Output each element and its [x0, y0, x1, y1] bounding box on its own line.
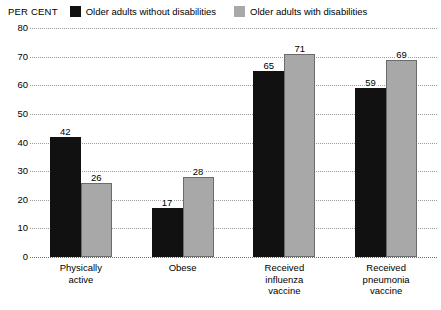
bar[interactable]: 69 [386, 60, 417, 258]
bar[interactable]: 17 [152, 208, 183, 257]
y-axis-tick-label: 50 [4, 109, 28, 119]
legend-swatch-with-disabilities-icon [234, 6, 245, 17]
legend-item-without-disabilities: Older adults without disabilities [70, 6, 216, 17]
bar-group: 6571 [253, 28, 315, 257]
bar-value-label: 28 [192, 166, 205, 177]
bar-group: 5969 [355, 28, 417, 257]
bar[interactable]: 28 [183, 177, 214, 257]
bar-groups: 4226172865715969 [30, 28, 437, 257]
bar[interactable]: 26 [81, 183, 112, 257]
legend-label-with-disabilities: Older adults with disabilities [250, 6, 367, 17]
legend-item-with-disabilities: Older adults with disabilities [234, 6, 367, 17]
x-axis-category-label: Received influenza vaccine [234, 262, 336, 297]
bar-group: 1728 [152, 28, 214, 257]
y-axis-tick-label: 60 [4, 80, 28, 90]
y-axis-tick-label: 10 [4, 223, 28, 233]
y-axis-tick-label: 20 [4, 195, 28, 205]
y-axis-tick-label: 80 [4, 23, 28, 33]
legend-swatch-without-disabilities-icon [70, 6, 81, 17]
bar[interactable]: 59 [355, 88, 386, 257]
bar-value-label: 69 [395, 49, 408, 60]
x-axis-labels: Physically activeObeseReceived influenza… [30, 262, 437, 308]
bar-value-label: 26 [90, 172, 103, 183]
x-axis-category-label: Obese [132, 262, 234, 274]
bar[interactable]: 71 [284, 54, 315, 257]
bar-value-label: 71 [294, 43, 307, 54]
y-axis-tick-label: 30 [4, 166, 28, 176]
bar[interactable]: 42 [50, 137, 81, 257]
x-axis-category-label: Received pneumonia vaccine [335, 262, 437, 297]
bar[interactable]: 65 [253, 71, 284, 257]
chart-header: PER CENT Older adults without disabiliti… [0, 0, 441, 22]
x-axis-category-label: Physically active [30, 262, 132, 285]
legend-label-without-disabilities: Older adults without disabilities [86, 6, 216, 17]
bar-value-label: 65 [263, 60, 276, 71]
y-axis-tick-label: 0 [4, 252, 28, 262]
y-axis-tick-label: 70 [4, 52, 28, 62]
bar-value-label: 59 [364, 77, 377, 88]
y-axis-tick-label: 40 [4, 138, 28, 148]
bar-value-label: 17 [161, 197, 174, 208]
chart-legend: Older adults without disabilities Older … [70, 6, 386, 17]
chart-plot: 01020304050607080 4226172865715969 [0, 28, 441, 260]
gridline [30, 257, 437, 258]
axis-unit-label: PER CENT [8, 6, 58, 17]
bar-value-label: 42 [59, 126, 72, 137]
bar-group: 4226 [50, 28, 112, 257]
